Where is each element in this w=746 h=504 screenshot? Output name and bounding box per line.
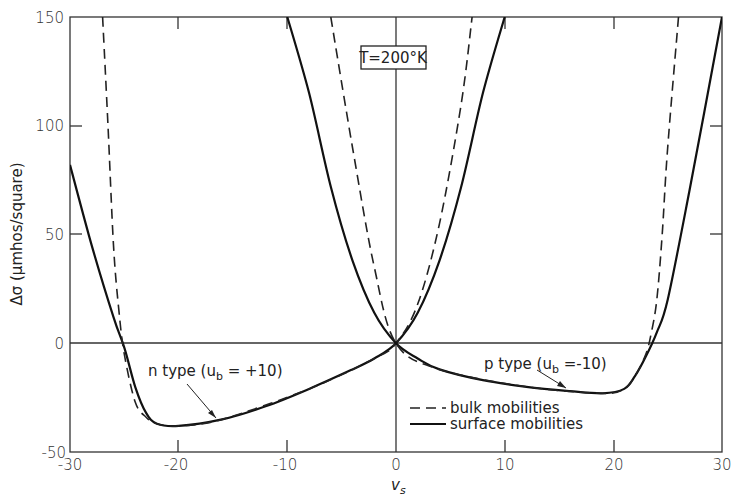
- xtick-0: 0: [391, 456, 401, 474]
- legend-surface-label: surface mobilities: [450, 415, 583, 433]
- ytick-50: 50: [45, 226, 64, 244]
- x-axis-title: vs: [391, 476, 406, 497]
- n-type-label: n type (ub = +10): [148, 362, 283, 383]
- temperature-box: T=200°K: [358, 46, 428, 69]
- xtick-minus30: -30: [58, 456, 83, 474]
- xtick-30: 30: [712, 456, 731, 474]
- n-type-arrow: [187, 384, 216, 418]
- p-type-label: p type (ub =-10): [484, 355, 607, 376]
- ytick-0: 0: [54, 335, 64, 353]
- legend: bulk mobilities surface mobilities: [410, 399, 583, 433]
- xtick-minus20: -20: [164, 456, 189, 474]
- xtick-minus10: -10: [273, 456, 298, 474]
- series-2-line: [287, 17, 722, 393]
- y-axis-title: Δσ (μmhos/square): [8, 162, 26, 305]
- ytick-100: 100: [35, 117, 64, 135]
- series-3-line: [331, 17, 679, 393]
- svg-text:T=200°K: T=200°K: [358, 49, 428, 67]
- xtick-20: 20: [604, 456, 623, 474]
- xtick-10: 10: [495, 456, 514, 474]
- ytick-150: 150: [35, 9, 64, 27]
- chart-canvas: 150 100 50 0 -50 -30 -20 -10 0 10 20 30 …: [0, 0, 746, 504]
